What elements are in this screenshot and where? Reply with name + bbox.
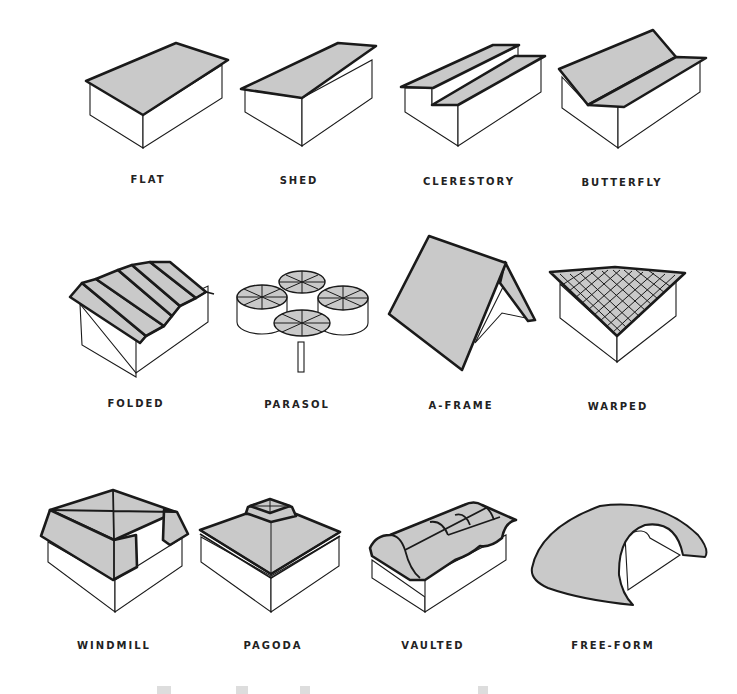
- parasol-roof-drawing: [237, 271, 368, 372]
- shed-roof-drawing: [241, 43, 376, 146]
- pagoda-roof-drawing: [200, 499, 340, 612]
- label-vaulted: VAULTED: [363, 640, 503, 651]
- label-warped: WARPED: [548, 401, 688, 412]
- a-frame-roof-drawing: [389, 236, 535, 370]
- label-shed: SHED: [229, 175, 369, 186]
- windmill-roof-drawing: [41, 490, 188, 612]
- clipped-caption-fragment: [236, 686, 248, 694]
- warped-roof-drawing: [550, 267, 685, 362]
- flat-roof-drawing: [86, 43, 228, 148]
- label-clerestory: CLERESTORY: [399, 176, 539, 187]
- vaulted-roof-drawing: [370, 503, 516, 613]
- clipped-caption-fragment: [157, 686, 171, 694]
- label-parasol: PARASOL: [227, 399, 367, 410]
- free-form-roof-drawing: [532, 505, 707, 605]
- clerestory-roof-drawing: [401, 45, 545, 146]
- clipped-caption-fragment: [300, 686, 310, 694]
- label-pagoda: PAGODA: [203, 640, 343, 651]
- label-butterfly: BUTTERFLY: [552, 177, 692, 188]
- label-flat: FLAT: [78, 174, 218, 185]
- butterfly-roof-drawing: [559, 30, 706, 148]
- clipped-caption-fragment: [478, 686, 488, 694]
- label-folded: FOLDED: [66, 398, 206, 409]
- label-windmill: WINDMILL: [44, 640, 184, 651]
- folded-roof-drawing: [70, 262, 214, 377]
- roof-types-diagram: FLAT SHED CLERESTORY BUTTERFLY FOLDED PA…: [0, 0, 737, 694]
- label-a-frame: A-FRAME: [391, 400, 531, 411]
- label-free-form: FREE-FORM: [543, 640, 683, 651]
